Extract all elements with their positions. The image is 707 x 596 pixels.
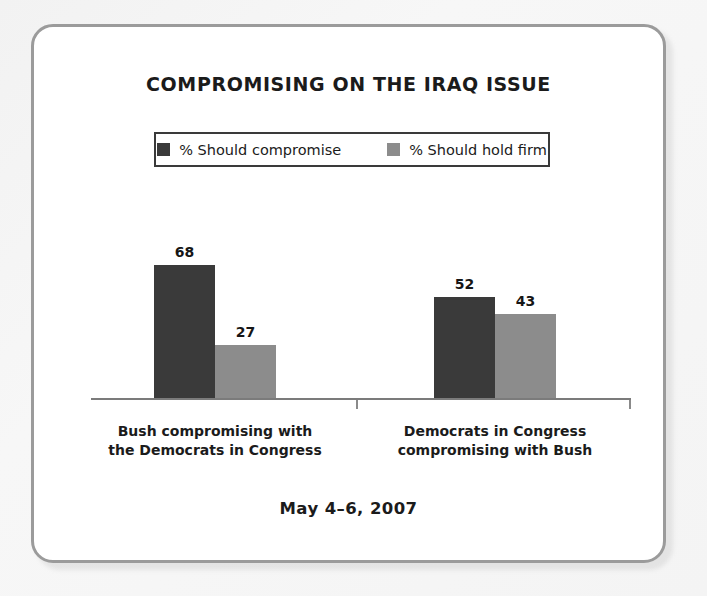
bar-value-group1-series1: 43 bbox=[495, 293, 556, 309]
x-axis-line bbox=[91, 398, 631, 400]
category-label-0: Bush compromising with the Democrats in … bbox=[100, 422, 330, 460]
category-label-1-line0: Democrats in Congress bbox=[380, 422, 610, 441]
bar-value-group0-series1: 27 bbox=[215, 324, 276, 340]
axis-tick-end bbox=[629, 400, 631, 409]
bar-value-group1-series0: 52 bbox=[434, 276, 495, 292]
bar-value-group0-series0: 68 bbox=[154, 244, 215, 260]
category-label-1-line1: compromising with Bush bbox=[380, 441, 610, 460]
page-root: COMPROMISING ON THE IRAQ ISSUE % Should … bbox=[0, 0, 707, 596]
chart-card: COMPROMISING ON THE IRAQ ISSUE % Should … bbox=[31, 24, 666, 563]
category-label-1: Democrats in Congress compromising with … bbox=[380, 422, 610, 460]
category-label-0-line1: the Democrats in Congress bbox=[100, 441, 330, 460]
category-label-0-line0: Bush compromising with bbox=[100, 422, 330, 441]
axis-tick-group-separator bbox=[356, 400, 358, 409]
plot-area: 68 27 52 43 Bush compromising with the D… bbox=[34, 27, 669, 566]
bar-group1-series1 bbox=[495, 314, 556, 398]
bar-group0-series0 bbox=[154, 265, 215, 398]
bar-group1-series0 bbox=[434, 297, 495, 398]
bar-group0-series1 bbox=[215, 345, 276, 398]
survey-date-label: May 4–6, 2007 bbox=[34, 499, 663, 518]
